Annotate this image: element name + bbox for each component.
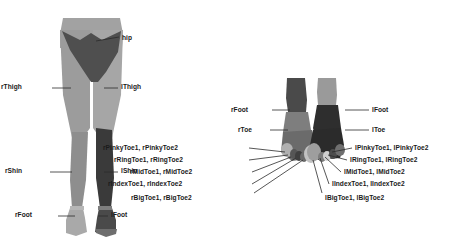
- rfoot-leader-rIndexToe: [252, 158, 296, 184]
- rfoot-label-rIndexToe: rIndexToe1, rIndexToe2: [108, 181, 182, 188]
- rfoot-label-rToe: rToe: [238, 127, 252, 134]
- rfoot-label-rRingToe: rRingToe1, rRingToe2: [114, 157, 183, 164]
- legs-label-lFoot: lFoot: [111, 212, 127, 219]
- lfoot-label-lPinkyToe: lPinkyToe1, lPinkyToe2: [355, 145, 428, 152]
- l-foot-toes-shape: [96, 229, 117, 237]
- lfoot-label-lFoot: lFoot: [372, 107, 388, 114]
- figure-root: hiprThighlThighrShinlShinrFootlFoot rFoo…: [0, 0, 459, 243]
- lfoot-label-lBigToe: lBigToe1, lBigToe2: [325, 195, 384, 202]
- l-shank-shape: [317, 78, 337, 105]
- r-ankle-band: [70, 206, 84, 210]
- figure-artwork: [0, 0, 459, 243]
- r-shank-shape: [286, 78, 307, 112]
- rfoot-leader-rRingToe: [249, 155, 288, 160]
- rfoot-label-rBigToe: rBigToe1, rBigToe2: [131, 195, 192, 202]
- r-shin-shape: [70, 132, 88, 208]
- lfoot-label-lToe: lToe: [372, 127, 385, 134]
- legs-label-rFoot: rFoot: [15, 212, 32, 219]
- r-foot-shape: [66, 208, 87, 236]
- rfoot-label-rMidToe: rMidToe1, rMidToe2: [130, 169, 192, 176]
- rfoot-label-rFoot: rFoot: [231, 107, 248, 114]
- legs-label-hip: hip: [122, 35, 132, 42]
- lfoot-leader-lMidToe: [325, 157, 341, 172]
- l-shin-shape: [96, 128, 114, 208]
- lfoot-label-lIndexToe: lIndexToe1, lIndexToe2: [332, 181, 405, 188]
- lfoot-label-lMidToe: lMidToe1, lMidToe2: [344, 169, 405, 176]
- l-ankle-band: [98, 206, 112, 210]
- legs-label-rShin: rShin: [5, 168, 22, 175]
- rfoot-leader-rPinkyToe: [249, 148, 285, 152]
- rfoot-leader-rBigToe: [254, 160, 303, 193]
- legs-label-lThigh: lThigh: [121, 84, 141, 91]
- legs-label-rThigh: rThigh: [1, 84, 22, 91]
- legs-graphic: [50, 18, 123, 237]
- lfoot-leader-lIndexToe: [320, 158, 329, 184]
- feet-graphic: [249, 78, 369, 193]
- lfoot-leader-lBigToe: [313, 160, 322, 193]
- rfoot-label-rPinkyToe: rPinkyToe1, rPinkyToe2: [103, 145, 178, 152]
- lfoot-label-lRingToe: lRingToe1, lRingToe2: [350, 157, 417, 164]
